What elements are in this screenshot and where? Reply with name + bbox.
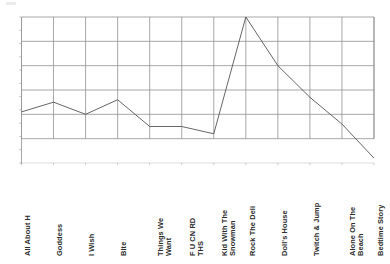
horizontal-gridlines <box>22 17 375 139</box>
line-chart: All About HGoddessI WishBiteThings WeWan… <box>0 0 390 264</box>
vertical-gridlines <box>22 17 375 139</box>
axis-lines <box>22 17 375 164</box>
chart-plot-area <box>0 0 390 264</box>
axis-tick-marks <box>19 17 374 165</box>
data-series-line <box>22 17 375 158</box>
